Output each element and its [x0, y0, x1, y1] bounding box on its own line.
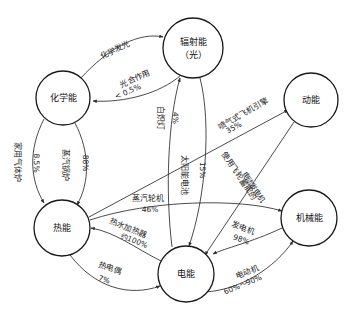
edge-label-chem-to-therm-a: 家用气体炉: [13, 142, 23, 182]
edge-path-therm-to-mech: [90, 203, 282, 220]
node-electrical[interactable]: 电能: [158, 246, 214, 302]
edge-elec-to-rad: 白炽灯 4%: [156, 78, 181, 247]
edge-pct-elec-to-rad: 4%: [171, 112, 180, 124]
node-label-radiant: 辐射能: [180, 36, 207, 47]
node-kinetic[interactable]: 动能: [284, 73, 338, 127]
node-radiant[interactable]: 辐射能 （光）: [163, 18, 223, 78]
edge-label-elec-to-rad: 白炽灯: [156, 106, 166, 130]
node-chemical[interactable]: 化学能: [36, 71, 90, 125]
edge-therm-to-elec: 热电偶 7%: [70, 255, 160, 290]
node-label-thermal: 热能: [53, 222, 71, 233]
edge-rad-to-elec: 太阳能电池 15%: [180, 78, 207, 246]
edge-pct-chem-to-therm-b: 88%: [81, 155, 90, 172]
node-mechanical[interactable]: 机械能: [281, 190, 337, 246]
edge-elec-to-mech: 电动机 60%～90%: [205, 241, 293, 296]
node-thermal[interactable]: 热能: [34, 200, 90, 256]
edge-chem-to-rad: 化学发光: [80, 36, 163, 79]
edge-pct-rad-to-elec: 15%: [198, 162, 207, 179]
edge-path-elec-to-rad: [168, 78, 180, 247]
edge-label-therm-to-mech: 蒸汽轮机: [132, 193, 164, 203]
node-circle-radiant: [163, 18, 223, 78]
edge-label-chem-to-therm-b: 蒸汽锅炉: [61, 149, 71, 181]
diagram-canvas: 化学发光 光合作用 < 0.5% 家用气体炉 8.5% 蒸汽锅炉 88% 白炽灯…: [0, 0, 351, 321]
edge-pct-therm-to-mech: 46%: [142, 205, 159, 214]
energy-conversion-diagram: 化学发光 光合作用 < 0.5% 家用气体炉 8.5% 蒸汽锅炉 88% 白炽灯…: [0, 0, 351, 321]
node-label-mechanical: 机械能: [296, 212, 323, 223]
edge-pct-chem-to-therm-a: 8.5%: [32, 153, 41, 172]
edge-chem-to-therm-b: 蒸汽锅炉 88%: [61, 123, 90, 205]
node-label-kinetic: 动能: [302, 94, 320, 105]
edge-label-therm-to-kin: 喷气式飞机引擎: [216, 96, 270, 132]
edge-chem-to-therm-a: 家用气体炉 8.5%: [13, 119, 45, 203]
edge-label-rad-to-elec: 太阳能电池: [180, 155, 190, 195]
edge-pct-mech-to-elec: 98%: [232, 232, 251, 246]
edge-elec-to-therm: 热水加热器 约100%: [91, 215, 161, 261]
edge-pct-therm-to-elec: 7%: [97, 273, 111, 285]
node-label-electrical: 电能: [177, 268, 195, 279]
edge-rad-to-chem: 光合作用 < 0.5%: [93, 68, 180, 102]
edge-label-chem-to-rad: 化学发光: [98, 38, 131, 61]
node-label-radiant-sub: （光）: [180, 49, 207, 60]
edge-mech-to-elec: 发电机 98%: [213, 219, 282, 254]
node-label-chemical: 化学能: [50, 92, 77, 103]
